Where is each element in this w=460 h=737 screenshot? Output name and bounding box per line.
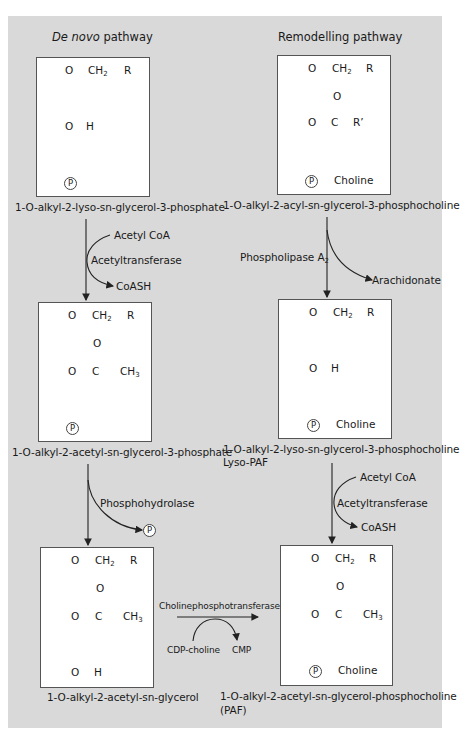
atom-o: O xyxy=(308,116,316,128)
atom-choline: Choline xyxy=(336,418,375,430)
atom-o: O xyxy=(71,666,79,678)
title-rest: pathway xyxy=(100,30,153,44)
atom-ch2: CH2 xyxy=(95,554,115,568)
atom-ch2: CH2 xyxy=(333,306,353,320)
product-coash: CoASH xyxy=(116,280,151,292)
atom-carbonyl-o: O xyxy=(333,90,341,102)
reactant-acetyl-coa: Acetyl CoA xyxy=(360,471,416,483)
product-arachidonate: Arachidonate xyxy=(372,274,441,286)
atom-c: C xyxy=(92,365,99,377)
sub-2: 2 xyxy=(348,312,352,320)
ch-text: CH xyxy=(123,610,138,622)
compound-label-c5: 1-O-alkyl-2-acetyl-sn-glycerol xyxy=(47,691,199,703)
enzyme-acetyltransferase: Acetyltransferase xyxy=(91,254,182,266)
product-cmp: CMP xyxy=(232,645,251,655)
phosphate-icon: P xyxy=(64,177,77,190)
atom-r: R xyxy=(369,552,376,564)
enzyme-acetyltransferase: Acetyltransferase xyxy=(337,497,428,509)
atom-o: O xyxy=(311,552,319,564)
atom-o: O xyxy=(309,362,317,374)
phosphate-product-icon: P xyxy=(143,524,156,537)
phosphate-icon: P xyxy=(309,665,322,678)
atom-choline: Choline xyxy=(334,174,373,186)
atom-r: R xyxy=(124,64,131,76)
atom-o: O xyxy=(71,554,79,566)
compound-label-c6-alias: (PAF) xyxy=(220,704,247,716)
product-coash: CoASH xyxy=(361,521,396,533)
ch-text: CH xyxy=(92,309,107,321)
atom-h: H xyxy=(86,120,94,132)
atom-o: O xyxy=(71,610,79,622)
atom-ch3: CH3 xyxy=(123,610,143,624)
ch-text: CH xyxy=(333,306,348,318)
sub-2: 2 xyxy=(350,558,354,566)
sub-2: 2 xyxy=(103,70,107,78)
atom-choline: Choline xyxy=(338,664,377,676)
sub-2: 2 xyxy=(325,257,329,265)
phosphate-icon: P xyxy=(66,422,79,435)
title-italic: De novo xyxy=(52,30,100,44)
ch-text: CH xyxy=(120,365,135,377)
sub-2: 2 xyxy=(107,315,111,323)
atom-carbonyl-o: O xyxy=(93,337,101,349)
atom-o: O xyxy=(309,306,317,318)
atom-ch2: CH2 xyxy=(88,64,108,78)
atom-r: R xyxy=(367,306,374,318)
compound-label-c6: 1-O-alkyl-2-acetyl-sn-glycerol-phosphoch… xyxy=(220,690,457,702)
enzyme-phospholipase-a2: Phospholipase A2 xyxy=(240,251,329,265)
enzyme-phosphohydrolase: Phosphohydrolase xyxy=(100,497,194,509)
atom-o: O xyxy=(65,120,73,132)
atom-r: R xyxy=(366,62,373,74)
atom-o: O xyxy=(65,64,73,76)
atom-r-prime: R’ xyxy=(353,116,364,128)
atom-h: H xyxy=(331,362,339,374)
atom-ch3: CH3 xyxy=(363,608,383,622)
atom-ch2: CH2 xyxy=(92,309,112,323)
compound-label-c1: 1-O-alkyl-2-lyso-sn-glycerol-3-phosphate xyxy=(15,201,225,213)
atom-ch2: CH2 xyxy=(335,552,355,566)
ch-text: CH xyxy=(335,552,350,564)
atom-o: O xyxy=(308,62,316,74)
reactant-acetyl-coa: Acetyl CoA xyxy=(114,229,170,241)
atom-o: O xyxy=(68,309,76,321)
atom-r: R xyxy=(127,309,134,321)
atom-c: C xyxy=(335,608,342,620)
sub-2: 2 xyxy=(347,68,351,76)
enzyme-text: Phospholipase A xyxy=(240,251,325,263)
phosphate-icon: P xyxy=(305,175,318,188)
atom-o: O xyxy=(68,365,76,377)
ch-text: CH xyxy=(95,554,110,566)
phosphate-icon: P xyxy=(307,419,320,432)
reactant-cdp-choline: CDP-choline xyxy=(167,645,220,655)
de-novo-pathway-title: De novo pathway xyxy=(52,30,153,44)
compound-label-c2: 1-O-alkyl-2-acyl-sn-glycerol-3-phosphoch… xyxy=(223,199,460,211)
sub-3: 3 xyxy=(138,616,142,624)
atom-carbonyl-o: O xyxy=(96,582,104,594)
atom-ch3: CH3 xyxy=(120,365,140,379)
ch-text: CH xyxy=(332,62,347,74)
compound-label-c4: 1-O-alkyl-2-lyso-sn-glycerol-3-phosphoch… xyxy=(223,443,459,455)
atom-o: O xyxy=(311,608,319,620)
compound-label-c3: 1-O-alkyl-2-acetyl-sn-glycerol-3-phospha… xyxy=(12,446,232,458)
sub-2: 2 xyxy=(110,560,114,568)
compound-label-c4-alias: Lyso-PAF xyxy=(223,456,268,468)
atom-ch2: CH2 xyxy=(332,62,352,76)
enzyme-cholinephosphotransferase: Cholinephosphotransferase xyxy=(159,601,280,611)
ch-text: CH xyxy=(88,64,103,76)
atom-h: H xyxy=(94,666,102,678)
atom-c: C xyxy=(95,610,102,622)
remodelling-pathway-title: Remodelling pathway xyxy=(278,30,402,44)
sub-3: 3 xyxy=(378,614,382,622)
ch-text: CH xyxy=(363,608,378,620)
atom-c: C xyxy=(331,116,338,128)
atom-carbonyl-o: O xyxy=(336,580,344,592)
sub-3: 3 xyxy=(135,371,139,379)
atom-r: R xyxy=(130,554,137,566)
